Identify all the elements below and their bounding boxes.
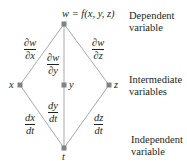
denominator: dt [49,114,57,124]
numerator: dz [94,113,103,123]
node-t [62,146,67,151]
edge-label-dw-dz: ∂w∂z [92,38,104,61]
node-z [107,83,112,88]
denominator: ∂z [93,51,102,61]
numerator: ∂w [47,53,59,63]
edge-label-dx-dt: dxdt [25,113,35,136]
node-label-w: w = f(x, y, z) [62,8,115,19]
node-w [62,22,67,27]
edge-label-dz-dt: dzdt [94,113,103,136]
denominator: ∂y [48,66,58,76]
level-label-dependent: Dependent variable [129,10,174,34]
node-label-t: t [62,151,65,161]
edge-label-dy-dt: dydt [48,101,58,124]
level-label-line: Intermediate [129,74,182,86]
node-label-z: z [114,79,118,90]
numerator: ∂w [92,38,104,48]
numerator: dy [48,101,58,111]
node-label-y: y [69,79,74,90]
level-label-line: Dependent [129,10,174,22]
level-label-line: Independent [131,134,183,146]
level-label-independent: Independent variable [131,134,183,158]
node-y [62,83,67,88]
denominator: dt [26,126,34,136]
numerator: ∂w [24,38,36,48]
level-label-line: variable [131,146,183,158]
node-x [18,83,23,88]
node-label-x: x [9,79,14,90]
level-label-intermediate: Intermediate variables [129,74,182,98]
level-label-line: variable [129,22,174,34]
numerator: dx [25,113,35,123]
denominator: ∂x [25,51,35,61]
level-label-line: variables [129,86,182,98]
edge-label-dw-dy: ∂w∂y [47,53,59,76]
denominator: dt [95,126,103,136]
edge-label-dw-dx: ∂w∂x [24,38,36,61]
